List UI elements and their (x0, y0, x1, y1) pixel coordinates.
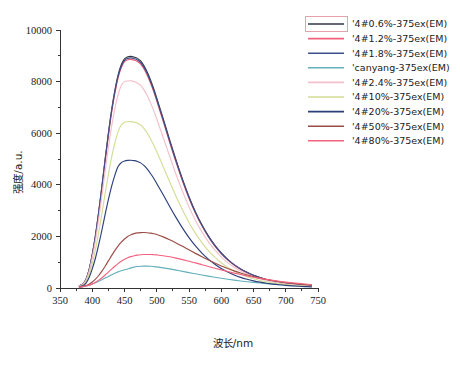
x-tick-labels: 350400450500550600650700750 (52, 295, 326, 306)
spectrum-line-chart[interactable]: 350400450500550600650700750 020004000600… (0, 0, 460, 366)
legend-label[interactable]: 'canyang-375ex(EM) (352, 62, 450, 73)
legend-label[interactable]: '4#20%-375ex(EM) (352, 106, 444, 117)
legend-label[interactable]: '4#2.4%-375ex(EM) (352, 77, 447, 88)
series-line[interactable] (79, 81, 311, 286)
x-tick-label: 500 (149, 295, 165, 306)
legend-label[interactable]: '4#50%-375ex(EM) (352, 121, 444, 132)
y-tick-label: 2000 (31, 231, 52, 242)
y-tick-label: 8000 (31, 76, 52, 87)
x-tick-label: 350 (52, 295, 68, 306)
plot-area (79, 56, 311, 287)
legend-label[interactable]: '4#80%-375ex(EM) (352, 135, 444, 146)
series-line[interactable] (79, 233, 311, 287)
y-tick-label: 0 (47, 283, 52, 294)
legend-label[interactable]: '4#10%-375ex(EM) (352, 91, 444, 102)
legend-label[interactable]: '4#1.8%-375ex(EM) (352, 48, 447, 59)
legend-label[interactable]: '4#1.2%-375ex(EM) (352, 33, 447, 44)
y-tick-label: 4000 (31, 179, 52, 190)
y-tick-label: 6000 (31, 128, 52, 139)
x-tick-label: 700 (278, 295, 294, 306)
x-tick-label: 750 (310, 295, 326, 306)
x-tick-label: 650 (246, 295, 262, 306)
chart-page: 350400450500550600650700750 020004000600… (0, 0, 460, 366)
y-axis-title: 强度/a.u. (12, 150, 24, 193)
y-tick-labels: 0200040006000800010000 (26, 25, 52, 294)
x-tick-label: 600 (213, 295, 229, 306)
x-tick-label: 400 (84, 295, 100, 306)
series-line[interactable] (79, 122, 311, 287)
legend[interactable]: '4#0.6%-375ex(EM)'4#1.2%-375ex(EM)'4#1.8… (305, 17, 450, 147)
series-group[interactable] (79, 56, 311, 287)
x-tick-label: 450 (117, 295, 133, 306)
legend-label[interactable]: '4#0.6%-375ex(EM) (352, 18, 447, 29)
series-line[interactable] (79, 160, 311, 287)
x-axis-title: 波长/nm (213, 337, 253, 349)
y-tick-label: 10000 (26, 25, 52, 36)
x-tick-label: 550 (181, 295, 197, 306)
